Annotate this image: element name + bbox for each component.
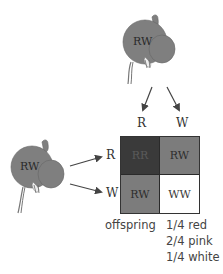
top-gamete-r: R (137, 117, 146, 129)
cell-rw-top: RW (160, 137, 199, 175)
arrow-to-gamete-w-left (70, 184, 101, 192)
left-parent-genotype: RW (20, 161, 39, 172)
cell-rw-bottom: RW (121, 175, 160, 213)
left-gamete-w: W (106, 187, 118, 199)
offspring-label: offspring (105, 220, 156, 232)
ratio-pink: 2/4 pink (166, 236, 213, 248)
top-gamete-w: W (176, 117, 188, 129)
arrow-to-gamete-r (143, 87, 152, 110)
cell-rr-label: RR (132, 149, 149, 162)
ratio-white: 1/4 white (166, 252, 220, 264)
punnett-square: RR RW RW WW (120, 136, 200, 214)
ratio-red: 1/4 red (166, 220, 207, 232)
top-parent-genotype: RW (133, 36, 152, 47)
left-gamete-r: R (106, 149, 115, 161)
cell-ww: WW (160, 175, 199, 213)
top-parent-flower-icon (123, 15, 175, 84)
arrow-to-gamete-r-left (70, 157, 101, 166)
cell-rw-top-label: RW (170, 149, 189, 162)
cell-ww-label: WW (168, 188, 191, 201)
left-parent-flower-icon (11, 140, 64, 213)
arrow-to-gamete-w (167, 87, 179, 110)
cell-rr: RR (121, 137, 160, 175)
cell-rw-bottom-label: RW (130, 188, 149, 201)
